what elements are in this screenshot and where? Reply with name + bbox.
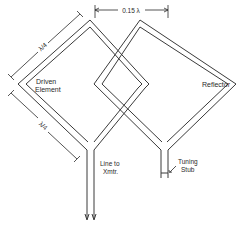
feed-line: [85, 150, 96, 220]
spacing-label: 0.15 λ: [122, 7, 140, 14]
driven-element-label-line2: Element: [35, 86, 61, 93]
tuning-stub: [161, 150, 168, 178]
tuning-stub-label-line1: Tuning: [178, 158, 198, 166]
feed-line-label-line1: Line to: [100, 160, 120, 167]
reflector-label: Reflector: [202, 81, 231, 88]
upper-side-dimension: λ/4: [8, 11, 83, 80]
feed-line-label-line2: Xmtr.: [103, 168, 118, 175]
tuning-stub-callout: [169, 166, 176, 173]
tuning-stub-label-line2: Stub: [181, 166, 195, 173]
driven-element-loop: [18, 20, 149, 150]
quad-antenna-diagram: 0.15 λ λ/4 λ/4 Driven Element Reflector …: [0, 0, 239, 227]
upper-side-label: λ/4: [37, 41, 48, 52]
spacing-dimension: 0.15 λ: [95, 5, 168, 18]
lower-side-label: λ/4: [38, 120, 49, 131]
driven-element-label-line1: Driven: [36, 78, 56, 85]
